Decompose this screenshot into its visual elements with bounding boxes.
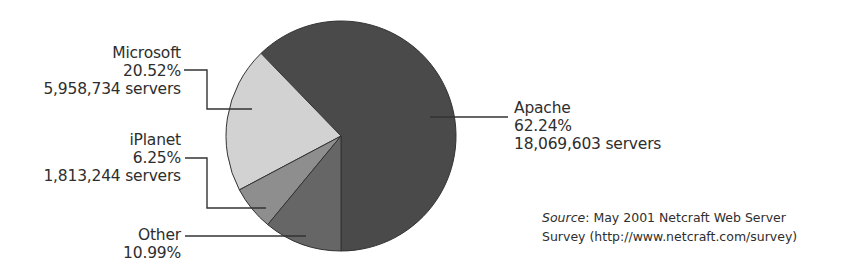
label-apache: Apache 62.24% 18,069,603 servers [514,99,661,153]
label-iplanet-name: iPlanet [43,131,181,149]
label-microsoft-pct: 20.52% [43,62,181,80]
label-other-name: Other [123,226,181,244]
label-apache-name: Apache [514,99,661,117]
label-iplanet-pct: 6.25% [43,149,181,167]
label-microsoft-servers: 5,958,734 servers [43,80,181,98]
source-note: Source: May 2001 Netcraft Web Server Sur… [542,208,797,246]
label-apache-servers: 18,069,603 servers [514,135,661,153]
label-microsoft-name: Microsoft [43,44,181,62]
source-line2: Survey (http://www.netcraft.com/survey) [542,227,797,246]
label-apache-pct: 62.24% [514,117,661,135]
source-prefix: Source [542,210,585,225]
label-microsoft: Microsoft 20.52% 5,958,734 servers [43,44,181,98]
label-iplanet-servers: 1,813,244 servers [43,167,181,185]
label-iplanet: iPlanet 6.25% 1,813,244 servers [43,131,181,185]
pie-slices [226,21,456,251]
source-line1: : May 2001 Netcraft Web Server [585,210,786,225]
label-other: Other 10.99% [123,226,181,262]
label-other-pct: 10.99% [123,244,181,262]
